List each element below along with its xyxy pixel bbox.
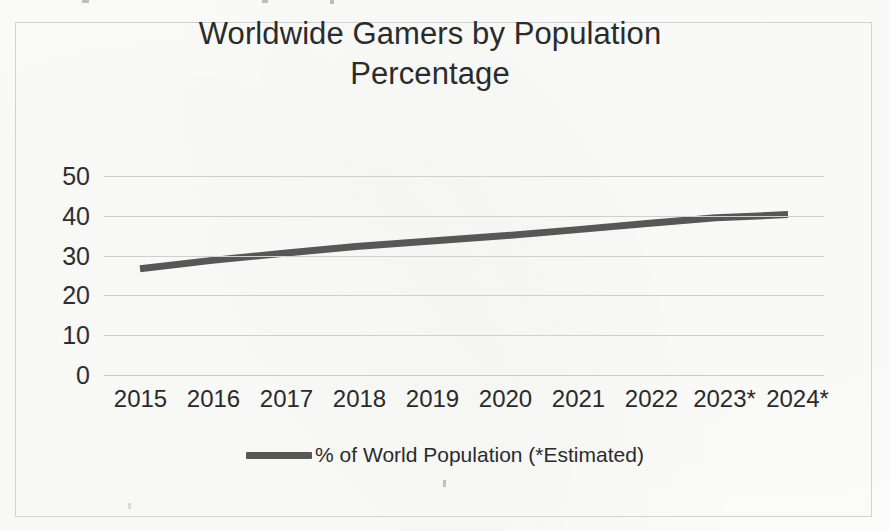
- x-axis-tick-2: 2017: [250, 385, 323, 413]
- gridline-20: 20: [104, 295, 824, 296]
- gridline-10: 10: [104, 335, 824, 336]
- chart-title: Worldwide Gamers by Population Percentag…: [70, 14, 790, 94]
- x-axis-tick-9: 2024*: [761, 385, 834, 413]
- series-polyline: [140, 215, 788, 269]
- y-axis-tick-50: 50: [62, 162, 90, 191]
- legend-line-marker: [246, 452, 312, 459]
- scan-artifact-top-3: [330, 0, 334, 4]
- y-axis-tick-10: 10: [62, 321, 90, 350]
- y-axis-tick-40: 40: [62, 201, 90, 230]
- plot-area: 50403020100: [104, 153, 824, 375]
- x-axis-tick-8: 2023*: [688, 385, 761, 413]
- chart-title-line-1: Worldwide Gamers by Population: [70, 14, 790, 54]
- y-axis-tick-20: 20: [62, 281, 90, 310]
- scan-artifact-top-1: [82, 0, 89, 3]
- x-axis-tick-5: 2020: [469, 385, 542, 413]
- series-line: [104, 153, 824, 375]
- x-axis-labels: 201520162017201820192020202120222023*202…: [104, 385, 834, 413]
- scan-artifact-top-2: [262, 0, 268, 3]
- x-axis-tick-0: 2015: [104, 385, 177, 413]
- x-axis-tick-1: 2016: [177, 385, 250, 413]
- gridline-40: 40: [104, 216, 824, 217]
- x-axis-tick-7: 2022: [615, 385, 688, 413]
- x-axis-tick-4: 2019: [396, 385, 469, 413]
- gridline-30: 30: [104, 256, 824, 257]
- x-axis-tick-6: 2021: [542, 385, 615, 413]
- chart-title-line-2: Percentage: [70, 54, 790, 94]
- y-axis-tick-0: 0: [76, 361, 90, 390]
- legend-label: % of World Population (*Estimated): [315, 443, 644, 467]
- gridline-0: 0: [104, 375, 824, 376]
- y-axis-tick-30: 30: [62, 241, 90, 270]
- x-axis-tick-3: 2018: [323, 385, 396, 413]
- chart-legend: % of World Population (*Estimated): [0, 443, 890, 467]
- gridline-50: 50: [104, 176, 824, 177]
